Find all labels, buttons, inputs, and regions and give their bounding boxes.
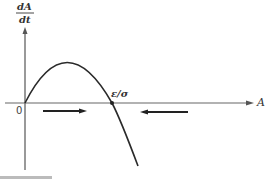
x-axis-label: A <box>257 96 265 109</box>
equilibrium-point <box>110 101 114 105</box>
growth-curve <box>25 63 138 167</box>
root-label: ε/σ <box>111 88 128 99</box>
caption-fragment <box>0 176 52 179</box>
origin-label: 0 <box>16 105 22 116</box>
y-axis-label-denominator: dt <box>19 14 31 25</box>
arrow-right-icon <box>79 109 87 114</box>
x-axis-arrowhead-icon <box>246 101 254 106</box>
phase-diagram: dA dt A 0 ε/σ <box>0 0 268 179</box>
y-axis-arrowhead-icon <box>23 27 28 34</box>
y-axis-label-numerator: dA <box>17 1 32 12</box>
arrow-left-icon <box>140 110 148 115</box>
